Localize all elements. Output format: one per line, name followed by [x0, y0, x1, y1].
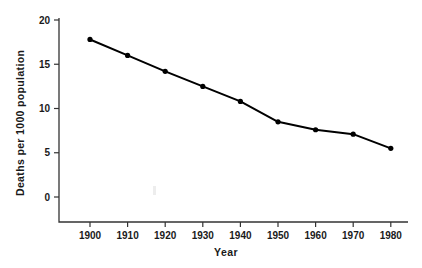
x-tick-label-group: 190019101920193019401950196019701980 — [79, 230, 402, 241]
scan-artifact — [153, 186, 156, 195]
data-point — [313, 127, 318, 132]
x-tick-label: 1920 — [154, 230, 177, 241]
y-tick-label: 20 — [39, 15, 51, 26]
chart-container: Deaths per 1000 population Year 05101520… — [0, 0, 422, 268]
data-point — [275, 119, 280, 124]
y-tick-label: 5 — [44, 147, 50, 158]
data-point — [200, 84, 205, 89]
data-point — [163, 69, 168, 74]
x-tick-label: 1940 — [229, 230, 252, 241]
x-tick-label: 1950 — [267, 230, 290, 241]
y-tick-label: 0 — [44, 192, 50, 203]
data-point — [388, 146, 393, 151]
x-tick-label: 1900 — [79, 230, 102, 241]
x-tick-label: 1980 — [380, 230, 403, 241]
x-tick-label: 1930 — [192, 230, 215, 241]
x-tick-label: 1910 — [116, 230, 139, 241]
x-tick-mark-group — [90, 222, 391, 227]
x-tick-label: 1960 — [304, 230, 327, 241]
y-tick-label: 10 — [39, 103, 51, 114]
x-tick-label: 1970 — [342, 230, 365, 241]
y-tick-mark-group — [54, 20, 59, 197]
data-point — [238, 99, 243, 104]
data-series-line — [90, 39, 391, 148]
data-point — [125, 53, 130, 58]
y-tick-label-group: 05101520 — [39, 15, 51, 203]
y-tick-label: 15 — [39, 59, 51, 70]
plot-area: 05101520 1900191019201930194019501960197… — [0, 0, 422, 268]
data-point — [87, 37, 92, 42]
data-point — [351, 132, 356, 137]
